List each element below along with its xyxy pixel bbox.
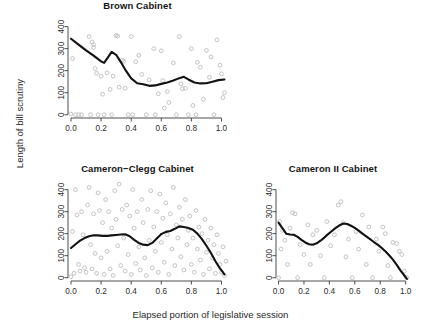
- svg-text:0.0: 0.0: [65, 124, 77, 133]
- svg-text:0.2: 0.2: [298, 287, 310, 296]
- svg-text:1.0: 1.0: [216, 287, 228, 296]
- svg-text:300: 300: [266, 204, 275, 218]
- svg-text:0.4: 0.4: [324, 287, 336, 296]
- svg-text:300: 300: [58, 41, 67, 55]
- panel-brown-cabinet: Brown Cabinet 01002003004000.00.20.40.60…: [40, 0, 235, 150]
- svg-text:300: 300: [58, 204, 67, 218]
- svg-text:0.8: 0.8: [375, 287, 387, 296]
- svg-text:400: 400: [266, 182, 275, 196]
- panel-cameron-clegg-cabinet: Cameron−Clegg Cabinet 01002003004000.00.…: [40, 163, 235, 313]
- y-axis-label: Length of bill scrutiny: [14, 59, 25, 189]
- svg-text:100: 100: [58, 248, 67, 262]
- svg-text:0.8: 0.8: [186, 124, 198, 133]
- svg-text:0.0: 0.0: [273, 287, 285, 296]
- svg-text:0.6: 0.6: [349, 287, 361, 296]
- plot-area: 01002003004000.00.20.40.60.81.0: [40, 0, 235, 150]
- svg-text:0.4: 0.4: [126, 287, 138, 296]
- svg-text:0.2: 0.2: [95, 287, 107, 296]
- svg-text:1.0: 1.0: [400, 287, 412, 296]
- svg-text:0.8: 0.8: [186, 287, 198, 296]
- svg-text:0.2: 0.2: [95, 124, 107, 133]
- svg-text:0: 0: [58, 275, 67, 280]
- svg-text:400: 400: [58, 19, 67, 33]
- svg-text:200: 200: [58, 63, 67, 77]
- svg-text:0.0: 0.0: [65, 287, 77, 296]
- svg-text:1.0: 1.0: [216, 124, 228, 133]
- plot-area: 01002003004000.00.20.40.60.81.0: [248, 163, 418, 313]
- svg-text:200: 200: [266, 226, 275, 240]
- svg-text:0: 0: [266, 275, 275, 280]
- svg-text:400: 400: [58, 182, 67, 196]
- figure-root: Length of bill scrutiny Elapsed portion …: [0, 0, 421, 332]
- panel-cameron-ii-cabinet: Cameron II Cabinet 01002003004000.00.20.…: [248, 163, 418, 313]
- svg-text:0.6: 0.6: [156, 287, 168, 296]
- plot-area: 01002003004000.00.20.40.60.81.0: [40, 163, 235, 313]
- svg-text:200: 200: [58, 226, 67, 240]
- svg-text:0: 0: [58, 112, 67, 117]
- svg-text:0.6: 0.6: [156, 124, 168, 133]
- svg-text:100: 100: [266, 248, 275, 262]
- svg-text:0.4: 0.4: [126, 124, 138, 133]
- svg-text:100: 100: [58, 85, 67, 99]
